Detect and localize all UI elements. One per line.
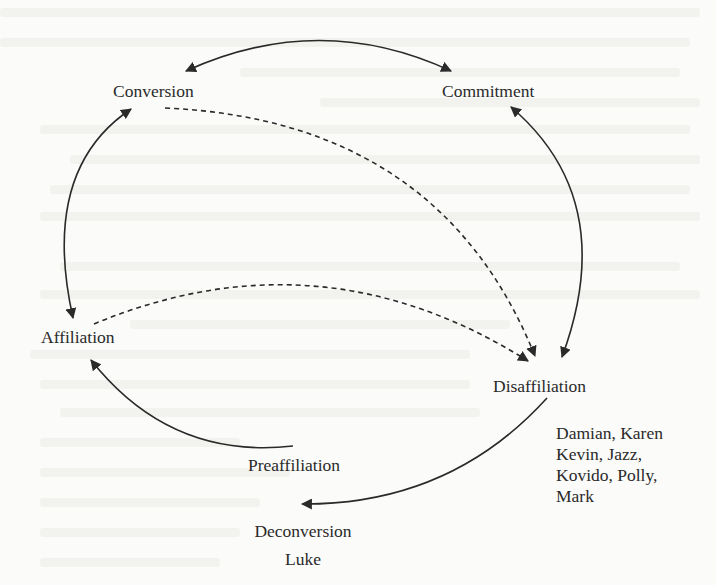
member-line: Mark: [556, 486, 663, 507]
member-line: Damian, Karen: [556, 423, 663, 444]
node-affiliation: Affiliation: [41, 327, 115, 347]
node-disaffiliation: Disaffiliation: [493, 376, 586, 396]
edge-affiliation-disaffiliation: [94, 285, 528, 361]
member-line: Kevin, Jazz,: [556, 444, 663, 465]
deconversion-member: Luke: [243, 549, 363, 569]
member-line: Kovido, Polly,: [556, 465, 663, 486]
node-deconversion: Deconversion: [243, 521, 363, 541]
edge-conversion-affiliation: [64, 109, 131, 318]
edge-conversion-commitment: [186, 41, 451, 72]
edge-preaffiliation-affiliation: [91, 360, 293, 448]
edge-disaffiliation-deconversion: [302, 398, 547, 504]
edge-conversion-disaffiliation: [165, 108, 535, 356]
edge-commitment-disaffiliation: [511, 107, 582, 357]
node-commitment: Commitment: [442, 81, 534, 101]
node-preaffiliation: Preaffiliation: [248, 455, 340, 475]
node-conversion: Conversion: [113, 81, 194, 101]
disaffiliation-members: Damian, Karen Kevin, Jazz, Kovido, Polly…: [556, 423, 663, 507]
